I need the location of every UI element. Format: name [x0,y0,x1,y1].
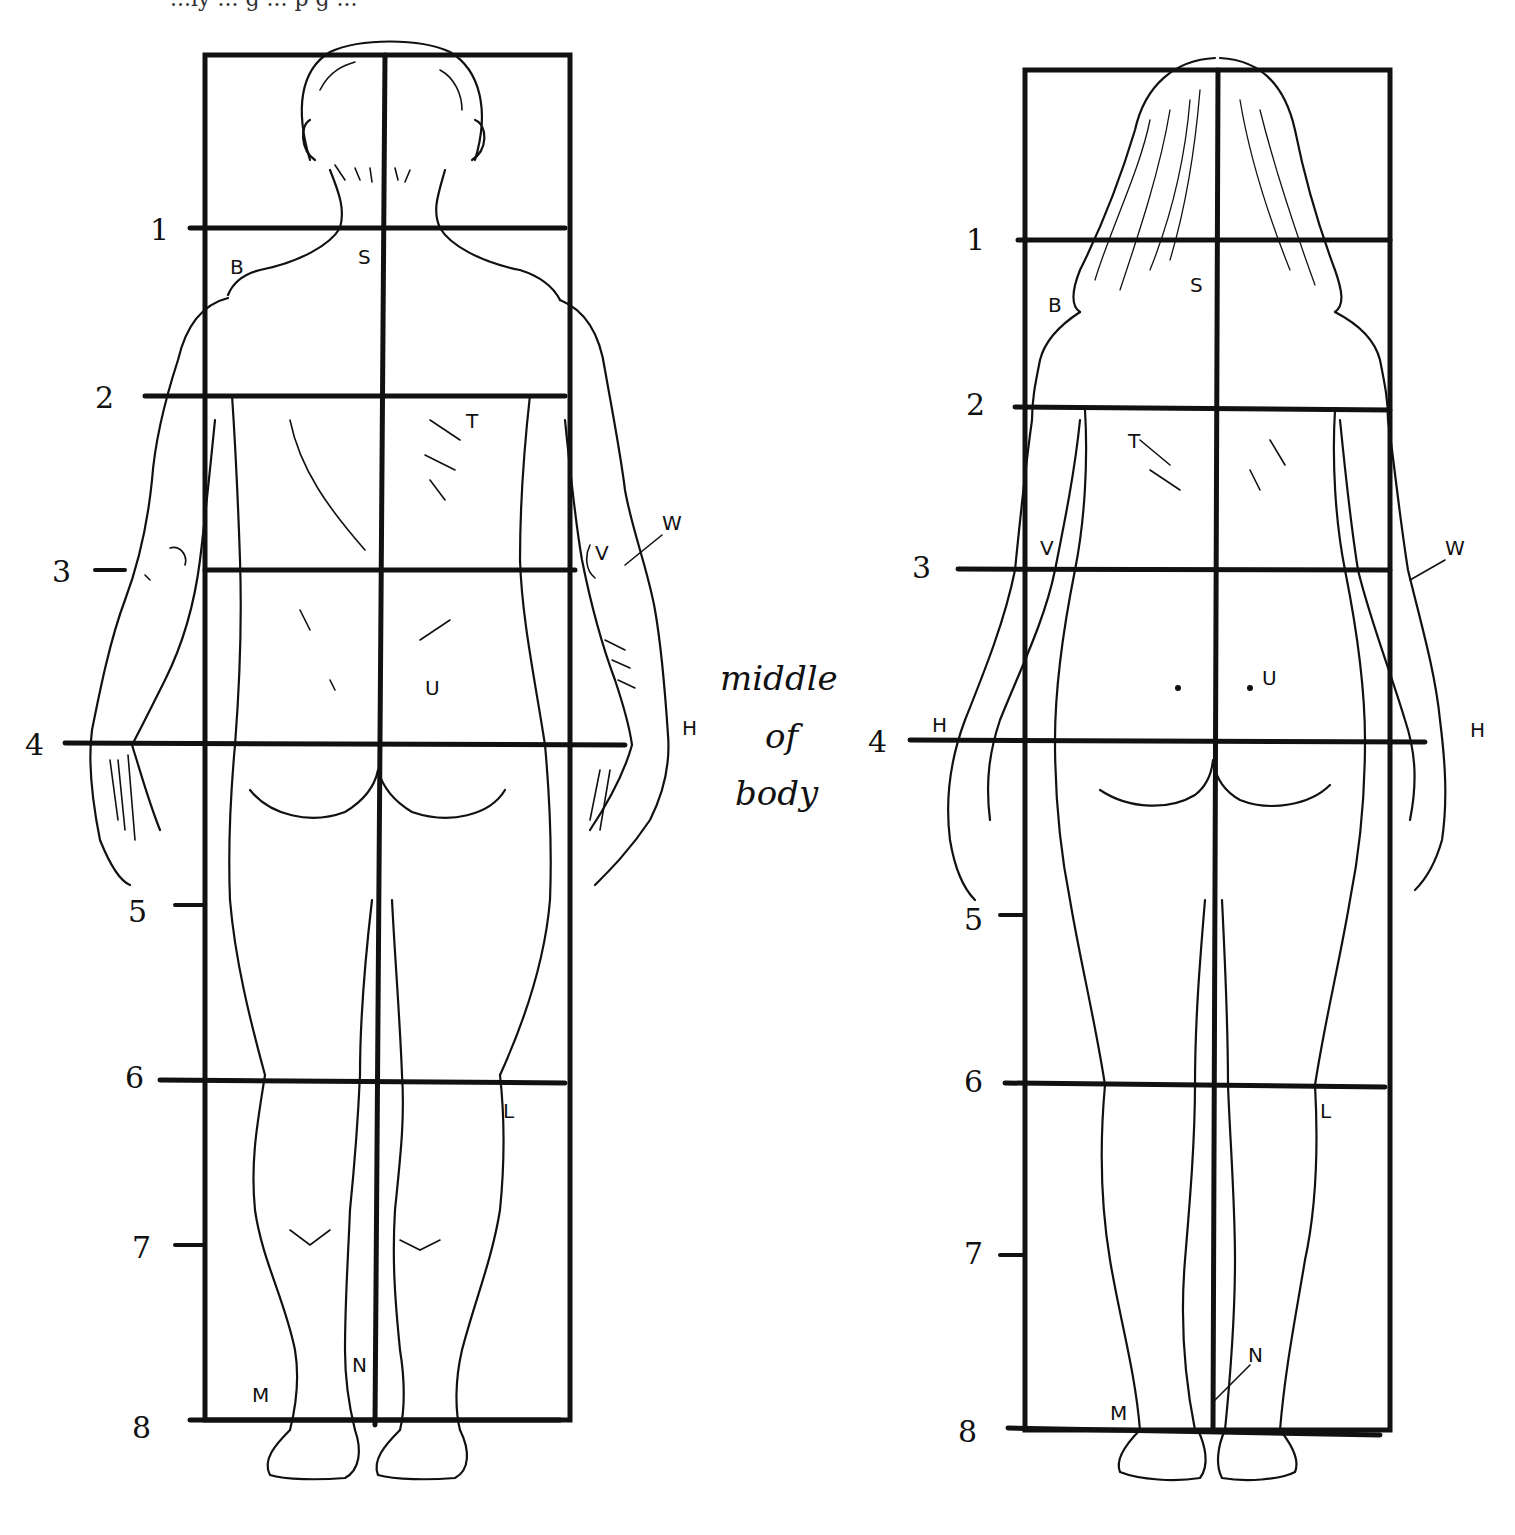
male-row-number-7: 7 [132,1230,151,1265]
top-partial-text: ...ly ... g ... p g ... [170,0,358,11]
male-landmark-w: W [662,511,682,535]
female-landmark-w: W [1445,536,1465,560]
proportion-diagram: ...ly ... g ... p g ... 1 2 3 4 5 6 7 8 [0,0,1515,1535]
female-landmark-l: L [1320,1099,1332,1123]
female-row-line-3 [958,569,1390,570]
female-grid [910,70,1425,1435]
female-row-number-7: 7 [964,1236,983,1271]
middle-of-body-note: middle of body [720,658,838,813]
female-row-number-4: 4 [868,724,887,759]
female-row-number-1: 1 [966,222,985,257]
male-figure: 1 2 3 4 5 6 7 8 [25,42,697,1480]
female-row-number-3: 3 [912,550,931,585]
male-landmark-m: M [252,1383,269,1407]
female-row-number-6: 6 [964,1064,983,1099]
female-row-line-4 [910,740,1425,742]
female-row-number-2: 2 [966,387,985,422]
female-row-number-5: 5 [964,902,983,937]
male-landmark-s: S [358,245,371,269]
note-line-2: of [765,716,803,756]
note-line-3: body [735,773,819,813]
male-row-line-6 [160,1080,565,1083]
female-row-number-8: 8 [958,1414,977,1449]
female-landmark-b: B [1048,293,1062,317]
female-landmark-h-right: H [1470,718,1485,742]
note-line-1: middle [720,658,838,698]
female-landmark-u: U [1262,666,1277,690]
male-row-number-1: 1 [150,212,169,247]
female-landmark-s: S [1190,273,1203,297]
male-row-number-4: 4 [25,727,44,762]
male-landmark-t: T [465,409,479,433]
male-landmark-l: L [503,1099,515,1123]
male-row-number-5: 5 [128,894,147,929]
male-row-number-6: 6 [125,1060,144,1095]
male-landmark-h: H [682,716,697,740]
male-landmark-u: U [425,676,440,700]
male-grid [65,55,625,1425]
male-landmarks: B S T V W U H L M N [230,245,697,1407]
male-center-line [375,55,385,1425]
female-landmark-h-left: H [932,713,947,737]
male-landmark-n: N [352,1353,367,1377]
female-center-line [1213,70,1218,1430]
male-row-number-8: 8 [132,1410,151,1445]
female-landmark-n: N [1248,1343,1263,1367]
female-landmarks: B S T V W U H H L M N [932,273,1485,1425]
male-row-number-2: 2 [95,380,114,415]
male-row-line-4 [65,743,625,745]
female-landmark-v: V [1040,536,1054,560]
female-figure: 1 2 3 4 5 6 7 8 [868,58,1485,1480]
female-landmark-t: T [1127,429,1141,453]
male-landmark-b: B [230,255,244,279]
male-grid-frame [205,55,570,1420]
male-landmark-v: V [595,541,609,565]
female-landmark-m: M [1110,1401,1127,1425]
male-row-number-3: 3 [52,554,71,589]
female-row-numbers: 1 2 3 4 5 6 7 8 [868,222,985,1449]
female-row-line-2 [1015,407,1390,410]
